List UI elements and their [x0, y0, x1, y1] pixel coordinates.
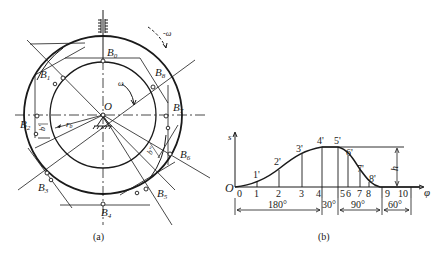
svg-text:10: 10 [398, 188, 408, 199]
svg-text:3': 3' [296, 143, 303, 154]
svg-text:B1: B1 [40, 68, 50, 82]
radial-lines [18, 40, 210, 225]
segment-return: 90° [351, 199, 365, 210]
svg-text:1': 1' [253, 169, 260, 180]
svg-text:b': b' [38, 125, 47, 131]
cam-diagram-figure: B0 B1 B2 B3 B4 B5 B6 B7 B8 O ω -ω rb b' … [0, 0, 445, 259]
svg-text:B0: B0 [107, 46, 118, 60]
svg-text:6: 6 [346, 188, 351, 199]
svg-text:5': 5' [334, 135, 341, 146]
svg-text:7: 7 [357, 188, 362, 199]
svg-text:B7: B7 [173, 101, 184, 115]
height-label: h [389, 166, 400, 171]
svg-text:5: 5 [340, 188, 345, 199]
origin-label: O [225, 181, 234, 195]
svg-text:2: 2 [276, 188, 281, 199]
svg-text:rb: rb [66, 119, 73, 129]
svg-text:b": b" [145, 145, 157, 156]
svg-text:8: 8 [366, 188, 371, 199]
svg-text:9: 9 [385, 188, 390, 199]
curve-point-labels: 1' 2' 3' 4' 5' 6' 7' 8' [253, 135, 376, 184]
svg-text:4: 4 [316, 188, 321, 199]
figure-b-caption: (b) [318, 231, 330, 243]
svg-text:4': 4' [317, 135, 324, 146]
svg-text:2': 2' [274, 156, 281, 167]
svg-text:B6: B6 [180, 148, 191, 162]
negative-omega-label: -ω [163, 29, 172, 38]
segment-top-dwell: 30° [322, 199, 336, 210]
segment-bottom-dwell: 60° [388, 199, 402, 210]
center-label: O [104, 100, 112, 112]
pivot-center [101, 113, 105, 117]
svg-text:1: 1 [254, 188, 259, 199]
omega-label: ω [118, 79, 124, 88]
svg-text:6': 6' [346, 147, 353, 158]
svg-text:B8: B8 [155, 66, 166, 80]
svg-text:7': 7' [357, 163, 364, 174]
svg-text:8': 8' [369, 173, 376, 184]
x-axis-label: φ [424, 186, 430, 198]
svg-text:3: 3 [299, 188, 304, 199]
svg-text:0: 0 [237, 188, 242, 199]
y-axis-label: s [228, 132, 232, 142]
svg-text:B4: B4 [101, 206, 112, 220]
segment-rise: 180° [268, 199, 287, 210]
figure-a-caption: (a) [93, 231, 104, 243]
svg-text:B3: B3 [38, 181, 49, 195]
svg-text:B2: B2 [20, 118, 31, 132]
rotation-arrow-icon [122, 84, 134, 104]
svg-text:B5: B5 [157, 187, 168, 201]
